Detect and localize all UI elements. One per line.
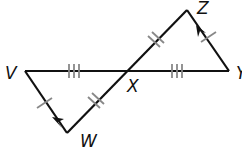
label-x: X [126,76,139,96]
geometry-diagram: V X Y Z W [0,0,242,150]
label-z: Z [196,0,209,18]
label-w: W [80,131,98,150]
label-y: Y [236,63,242,83]
label-v: V [5,63,18,83]
segment-yz [187,10,229,71]
